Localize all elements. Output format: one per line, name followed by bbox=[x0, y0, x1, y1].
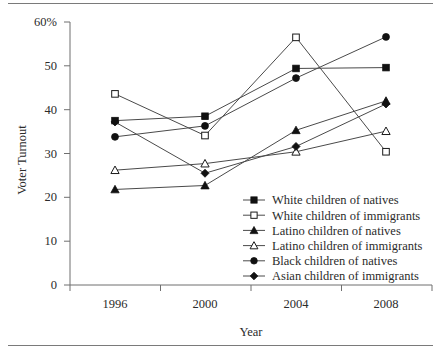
y-tick-label: 50 bbox=[45, 59, 58, 73]
series-0 bbox=[112, 64, 390, 124]
legend-item: Asian children of immigrants bbox=[243, 269, 419, 283]
legend-item: White children of natives bbox=[243, 193, 399, 207]
series-line bbox=[115, 37, 386, 151]
figure-container: Voter Turnout 60% 50 40 30 20 10 0 bbox=[0, 0, 441, 355]
y-tick-label: 10 bbox=[45, 234, 58, 248]
legend-label: Black children of natives bbox=[272, 254, 397, 268]
legend-item: White children of immigrants bbox=[243, 209, 420, 223]
legend-item: Black children of natives bbox=[243, 254, 397, 268]
legend-label: Asian children of immigrants bbox=[272, 269, 419, 283]
marker-filled-diamond bbox=[250, 272, 258, 280]
marker-open-square bbox=[383, 148, 390, 155]
legend-item: Latino children of natives bbox=[243, 224, 401, 238]
legend-label: Latino children of natives bbox=[272, 224, 401, 238]
series-1 bbox=[112, 34, 390, 155]
y-axis-ticks bbox=[64, 22, 70, 285]
y-axis-title: Voter Turnout bbox=[15, 125, 29, 195]
marker-filled-square bbox=[293, 65, 300, 72]
y-tick-label: 30 bbox=[45, 147, 58, 161]
marker-filled-square bbox=[202, 113, 209, 120]
marker-filled-diamond bbox=[292, 142, 300, 150]
marker-open-square bbox=[251, 212, 257, 218]
marker-filled-circle bbox=[112, 133, 119, 140]
y-axis-tick-labels: 60% 50 40 30 20 10 0 bbox=[34, 15, 57, 292]
marker-filled-square bbox=[383, 64, 390, 71]
x-tick-label: 2008 bbox=[374, 297, 399, 311]
marker-filled-diamond bbox=[201, 169, 209, 177]
x-tick-label: 1996 bbox=[103, 297, 128, 311]
marker-filled-square bbox=[251, 197, 257, 203]
marker-open-triangle bbox=[382, 127, 390, 135]
marker-open-square bbox=[293, 34, 300, 41]
legend-item: Latino children of immigrants bbox=[243, 239, 422, 253]
legend-label: Latino children of immigrants bbox=[272, 239, 422, 253]
x-tick-label: 2004 bbox=[284, 297, 310, 311]
legend-label: White children of natives bbox=[272, 193, 399, 207]
y-tick-label: 60% bbox=[34, 15, 57, 29]
marker-open-square bbox=[202, 132, 209, 139]
line-chart: Voter Turnout 60% 50 40 30 20 10 0 bbox=[0, 0, 441, 355]
marker-filled-circle bbox=[251, 258, 258, 265]
x-axis-title: Year bbox=[239, 325, 263, 339]
y-tick-label: 20 bbox=[45, 190, 58, 204]
marker-filled-circle bbox=[293, 75, 300, 82]
y-tick-label: 0 bbox=[51, 278, 57, 292]
legend-label: White children of immigrants bbox=[272, 209, 420, 223]
x-axis-ticks bbox=[70, 285, 432, 291]
series-layer bbox=[111, 33, 390, 192]
marker-filled-circle bbox=[383, 33, 390, 40]
y-tick-label: 40 bbox=[45, 103, 58, 117]
marker-filled-triangle bbox=[292, 126, 300, 134]
series-line bbox=[115, 131, 386, 170]
chart-legend: White children of nativesWhite children … bbox=[243, 193, 422, 283]
marker-filled-circle bbox=[202, 122, 209, 129]
marker-open-square bbox=[112, 91, 119, 98]
series-3 bbox=[111, 127, 390, 174]
x-tick-label: 2000 bbox=[193, 297, 218, 311]
x-axis-tick-labels: 1996 2000 2004 2008 bbox=[103, 297, 399, 311]
